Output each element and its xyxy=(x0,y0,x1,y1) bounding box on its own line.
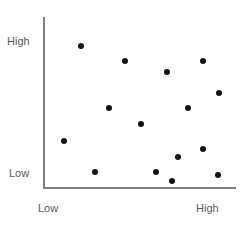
data-point xyxy=(200,146,206,152)
data-point xyxy=(138,121,144,127)
data-point xyxy=(106,105,112,111)
data-point xyxy=(169,178,175,184)
data-point xyxy=(216,90,222,96)
data-point xyxy=(164,69,170,75)
data-points-layer xyxy=(0,0,246,225)
data-point xyxy=(92,169,98,175)
data-point xyxy=(215,172,221,178)
data-point xyxy=(122,58,128,64)
data-point xyxy=(78,43,84,49)
data-point xyxy=(61,138,67,144)
data-point xyxy=(200,58,206,64)
data-point xyxy=(153,169,159,175)
scatter-plot-chart: High Low Low High xyxy=(0,0,246,225)
data-point xyxy=(175,154,181,160)
data-point xyxy=(185,105,191,111)
